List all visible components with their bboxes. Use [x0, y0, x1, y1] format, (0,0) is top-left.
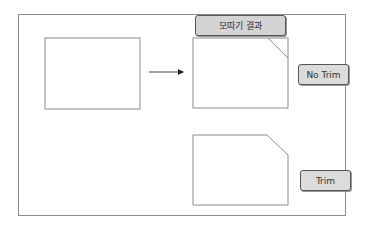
diagram-canvas	[0, 0, 370, 227]
trim-label: Trim	[300, 170, 351, 191]
no-trim-label: No Trim	[298, 64, 349, 85]
chamfer-result-label: 모따기 결과	[195, 15, 286, 36]
trim-result-shape	[193, 135, 288, 205]
original-rectangle	[45, 38, 140, 109]
no-trim-result-shape	[193, 38, 288, 108]
